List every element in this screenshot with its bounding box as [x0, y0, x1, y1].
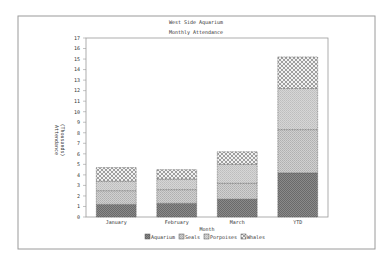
bar-segment-whales	[217, 152, 257, 165]
legend-swatch-aquarium	[145, 234, 150, 239]
y-tick-label: 5	[77, 161, 80, 167]
bar-segment-porpoises	[96, 181, 136, 190]
y-tick-label: 3	[77, 182, 80, 188]
y-axis-label-line: Attendance	[54, 125, 60, 155]
legend-swatch-whales	[241, 234, 246, 239]
y-tick-label: 7	[77, 140, 80, 146]
bar-segment-aquarium	[157, 203, 197, 217]
chart-subtitle: Monthly Attendance	[169, 29, 223, 36]
y-tick-label: 2	[77, 193, 80, 199]
y-tick-label: 10	[74, 109, 80, 115]
bar-segment-whales	[157, 170, 197, 179]
bar-segment-aquarium	[278, 173, 318, 217]
bar-segment-porpoises	[278, 89, 318, 130]
y-tick-label: 17	[74, 35, 80, 41]
bar-segment-whales	[96, 168, 136, 182]
chart-title: West Side Aquarium	[169, 19, 223, 26]
legend-label-whales: Whales	[247, 234, 265, 240]
x-tick-label: March	[230, 219, 245, 225]
legend-swatch-seals	[179, 234, 184, 239]
bar-segment-aquarium	[96, 204, 136, 217]
legend-label-seals: Seals	[185, 234, 200, 240]
y-tick-label: 11	[74, 98, 80, 104]
y-tick-label: 4	[77, 172, 80, 178]
y-tick-label: 13	[74, 77, 80, 83]
y-tick-label: 8	[77, 130, 80, 136]
x-tick-label: YTD	[293, 219, 302, 225]
y-tick-label: 16	[74, 45, 80, 51]
y-tick-label: 15	[74, 56, 80, 62]
legend-label-porpoises: Porpoises	[210, 234, 237, 241]
y-tick-label: 12	[74, 87, 80, 93]
y-tick-label: 1	[77, 203, 80, 209]
legend-swatch-porpoises	[204, 234, 209, 239]
bar-segment-aquarium	[217, 199, 257, 217]
bar-segment-porpoises	[217, 164, 257, 183]
x-tick-label: February	[165, 219, 189, 226]
bar-segment-seals	[96, 191, 136, 205]
bar-segment-seals	[157, 190, 197, 204]
y-tick-label: 9	[77, 119, 80, 125]
y-tick-label: 0	[77, 214, 80, 220]
x-axis-label: Month	[199, 226, 214, 232]
y-tick-label: 6	[77, 151, 80, 157]
stacked-bar-chart: West Side Aquarium Monthly Attendance At…	[0, 0, 390, 262]
legend-label-aquarium: Aquarium	[151, 234, 175, 241]
bar-segment-porpoises	[157, 179, 197, 190]
bar-segment-seals	[217, 183, 257, 199]
y-tick-label: 14	[74, 66, 80, 72]
x-tick-label: January	[106, 219, 127, 226]
y-axis-label: Attendance(Thousands)	[54, 123, 66, 156]
bar-segment-whales	[278, 57, 318, 89]
bar-segment-seals	[278, 130, 318, 173]
y-axis-label-line: (Thousands)	[60, 123, 66, 156]
